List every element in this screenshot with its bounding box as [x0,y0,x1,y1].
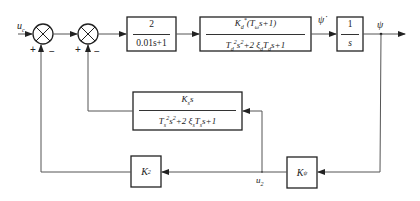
k2-sub: 2 [148,169,151,175]
rs-den-end: s+1 [202,116,216,126]
feedback-output-to-kpsi [318,34,381,172]
integrator-denominator: s [348,37,352,51]
psi-dot-label: ψ̇ [318,14,324,25]
sum1-plus-sign: + [30,44,36,55]
plant-num-t: (T [247,18,255,28]
plant-den-mid: +2 ξ [243,40,260,50]
fraction-bar [341,34,359,35]
feedback-k2-to-sum1 [41,45,131,172]
kpsi-gain: K [297,167,304,178]
plant-den-end: s+1 [271,40,285,50]
integrator-transfer-function: 1 s [337,17,363,51]
fraction-bar [206,34,305,35]
output-signal-label: ψ [377,19,383,30]
fraction-bar [133,34,170,35]
actuator-transfer-function: 2 0.01s+1 [127,17,176,51]
u2-sub: 2 [261,181,264,187]
actuator-denominator-text: 0.01s+1 [136,38,166,48]
plant-denominator: Td2s2+2 ξdTds+1 [226,37,285,54]
integrator-numerator: 1 [348,18,353,32]
summing-junction-2 [78,24,98,44]
input-signal-subscript: c [22,27,25,33]
kpsi-sub: ψ [303,170,307,176]
rs-den-mid: +2 ξ [176,116,193,126]
rs-num-tail: s [190,94,194,104]
rate-sensor-transfer-function: Kss Ts2s2+2 ξsTss+1 [133,92,242,130]
sum1-minus-sign: − [49,46,55,57]
k2-label: K2 [131,156,161,187]
u2-label: u2 [256,175,264,187]
sum2-minus-sign: − [94,46,100,57]
kpsi-label: Kψ [287,157,317,188]
plant-gain-sub: d [241,24,244,30]
rs-den-t1sub: s [164,121,166,127]
plant-transfer-function: Kd*(Tωs+1) Td2s2+2 ξdTds+1 [200,17,311,51]
rate-sensor-denominator: Ts2s2+2 ξsTss+1 [159,113,216,130]
input-signal-label: uc [17,20,25,33]
fraction-bar [139,110,236,111]
plant-den-t1sub: d [231,45,234,51]
sum2-plus-sign: + [75,44,81,55]
k2-gain: K [141,166,148,177]
actuator-numerator: 2 [149,18,154,32]
summing-junction-1 [33,24,53,44]
link-u2-to-rate-sensor [243,111,262,172]
plant-numerator: Kd*(Tωs+1) [235,15,276,32]
plant-num-tail: s+1) [259,18,276,28]
rate-sensor-numerator: Kss [182,93,194,108]
actuator-denominator: 0.01s+1 [136,37,166,51]
